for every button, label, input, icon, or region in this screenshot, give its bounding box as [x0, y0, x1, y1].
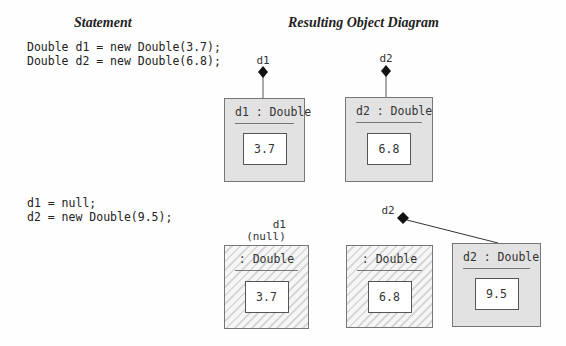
object-value: 6.8 [367, 133, 411, 165]
ref-label-d1: d1 [253, 55, 273, 67]
object-d2-double: d2 : Double 6.8 [345, 97, 433, 182]
d2-reference-diamond [381, 65, 391, 77]
object-d2-double-9-5: d2 : Double 9.5 [452, 243, 541, 327]
object-value: 9.5 [475, 278, 519, 310]
object-value: 3.7 [243, 133, 287, 165]
object-d1-double: d1 : Double 3.7 [224, 98, 305, 182]
object-title: d2 : Double [356, 104, 422, 123]
ref-null-note: (null) [246, 230, 286, 243]
ref-label-d2: d2 [378, 205, 398, 217]
object-diagram-figure: Statement Resulting Object Diagram Doubl… [0, 0, 566, 346]
object-title: : Double [357, 252, 422, 271]
d2-new-reference-diamond [397, 212, 409, 224]
object-title: d2 : Double [463, 250, 530, 269]
ref-label-d2: d2 [376, 53, 396, 65]
object-value: 6.8 [368, 281, 412, 313]
object-value: 3.7 [245, 281, 289, 313]
object-garbage-double-6-8: : Double 6.8 [346, 245, 433, 328]
object-garbage-double-3-7: : Double 3.7 [224, 245, 309, 329]
object-title: d1 : Double [235, 105, 294, 124]
d1-reference-diamond [258, 66, 268, 78]
object-title: : Double [235, 252, 298, 271]
